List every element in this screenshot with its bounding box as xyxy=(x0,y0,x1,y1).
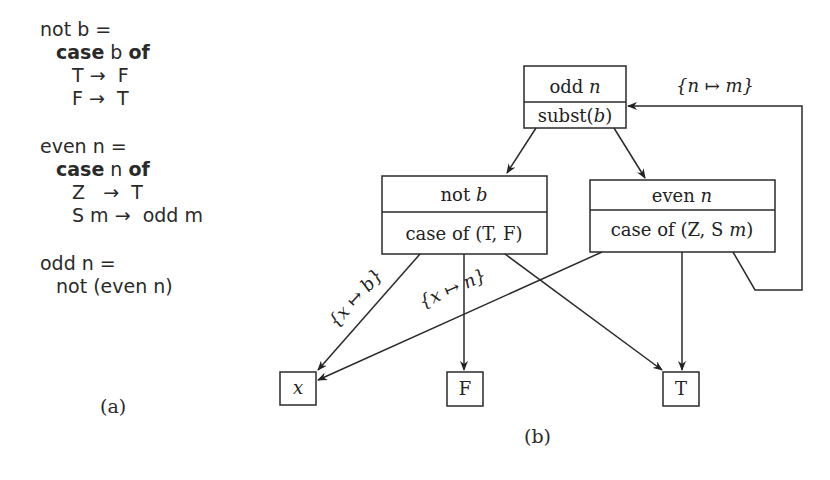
node-odd-top: odd n xyxy=(549,76,600,97)
edge-not-T xyxy=(505,254,662,370)
edge-even-x xyxy=(318,252,602,380)
node-odd-bottom: subst(b) xyxy=(538,105,612,126)
panel-b-diagram: odd n subst(b) not b case of (T, F) even… xyxy=(0,0,830,480)
node-not-top: not b xyxy=(441,184,488,205)
node-even-bottom: case of (Z, S m) xyxy=(611,219,753,240)
node-not-bottom: case of (T, F) xyxy=(406,223,523,244)
node-T-label: T xyxy=(675,378,687,399)
node-x-label: x xyxy=(293,377,303,398)
node-even-top: even n xyxy=(652,185,712,206)
edge-label-loop: {n ↦ m} xyxy=(676,75,754,96)
edge-odd-not xyxy=(507,128,536,173)
edge-label-x-n: {x ↦ n} xyxy=(416,264,490,312)
edge-odd-even xyxy=(614,128,645,178)
edge-label-x-b: {x ↦ b} xyxy=(324,264,387,331)
node-F-label: F xyxy=(459,378,472,399)
